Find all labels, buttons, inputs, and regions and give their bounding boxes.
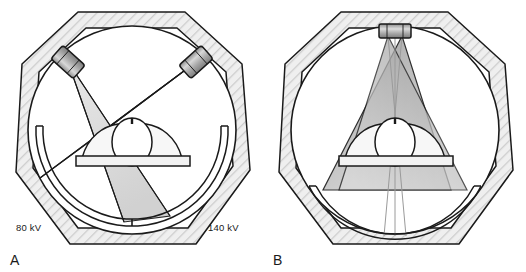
panel-b xyxy=(263,0,526,272)
kv-label-left: 80 kV xyxy=(16,222,41,233)
panel-letter-b: B xyxy=(273,252,283,268)
patient-table xyxy=(76,156,190,166)
patient-table xyxy=(339,156,453,166)
panel-letter-a: A xyxy=(10,252,20,268)
xray-tube-top xyxy=(379,24,411,38)
dual-energy-ct-figure: 80 kV 140 kV A B xyxy=(0,0,526,272)
kv-label-right: 140 kV xyxy=(208,222,239,233)
